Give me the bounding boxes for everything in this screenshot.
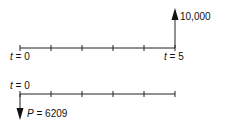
top-end-label: t = 5 <box>164 51 184 62</box>
up-arrow-icon <box>172 8 179 20</box>
bottom-timeline: t = 0 P = 6209 <box>10 80 175 120</box>
top-cash-flow-label: 10,000 <box>180 11 211 22</box>
bottom-cash-flow-label: P = 6209 <box>27 108 68 119</box>
cash-flow-diagram: 10,000 t = 0 t = 5 t = 0 P = 6209 <box>0 0 225 132</box>
down-arrow-icon <box>17 108 24 120</box>
bottom-start-label: t = 0 <box>10 80 30 91</box>
top-start-label: t = 0 <box>10 51 30 62</box>
top-timeline: 10,000 t = 0 t = 5 <box>10 8 211 62</box>
